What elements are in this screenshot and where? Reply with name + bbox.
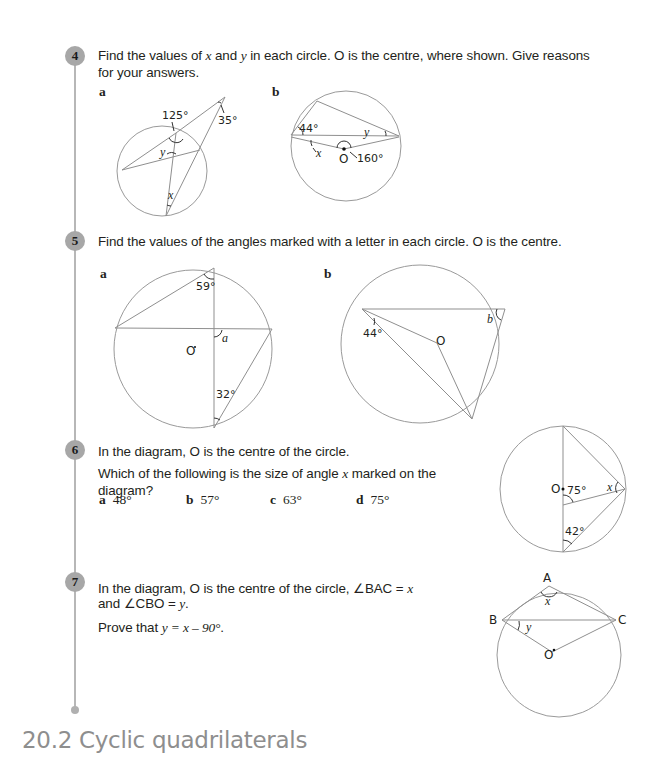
q7-circle-diagram [0,0,663,782]
q7-point-B: B [489,613,497,627]
q7-angle-y: y [526,620,531,635]
q7-point-C: C [618,613,626,627]
section-heading: 20.2 Cyclic quadrilaterals [22,727,307,753]
q7-centre-label: O [544,648,553,662]
q7-angle-x: x [545,594,550,609]
q7-point-A: A [543,571,551,585]
